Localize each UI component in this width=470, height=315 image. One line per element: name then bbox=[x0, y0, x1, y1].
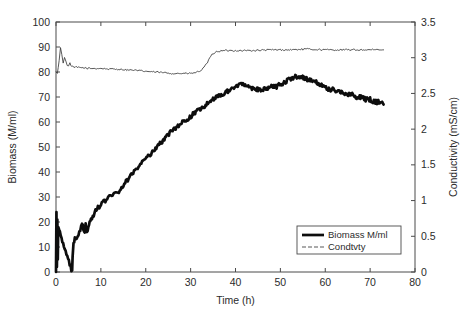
x-tick-label: 80 bbox=[409, 276, 421, 288]
x-tick-label: 10 bbox=[95, 276, 107, 288]
y-tick-label-right: 3.5 bbox=[421, 16, 436, 28]
chart-canvas: 0102030405060708001020304050607080901000… bbox=[0, 0, 470, 315]
y-axis-title-right: Conductivity (mS/cm) bbox=[447, 97, 459, 197]
y-tick-label-right: 1.5 bbox=[421, 158, 436, 170]
y-tick-label-left: 0 bbox=[44, 266, 50, 278]
x-tick-label: 50 bbox=[275, 276, 287, 288]
x-tick-label: 30 bbox=[185, 276, 197, 288]
y-tick-label-left: 30 bbox=[38, 191, 50, 203]
y-tick-label-right: 3 bbox=[421, 51, 427, 63]
y-tick-label-right: 2.5 bbox=[421, 87, 436, 99]
y-tick-label-left: 10 bbox=[38, 241, 50, 253]
x-axis-title: Time (h) bbox=[216, 294, 255, 306]
y-axis-title-left: Biomass (M/ml) bbox=[6, 111, 18, 184]
chart-figure: 0102030405060708001020304050607080901000… bbox=[0, 0, 470, 315]
x-tick-label: 0 bbox=[53, 276, 59, 288]
x-tick-label: 40 bbox=[230, 276, 242, 288]
y-tick-label-left: 60 bbox=[38, 116, 50, 128]
y-tick-label-left: 20 bbox=[38, 216, 50, 228]
x-tick-label: 70 bbox=[364, 276, 376, 288]
legend-label-biomass: Biomass M/ml bbox=[328, 229, 388, 240]
y-tick-label-right: 1 bbox=[421, 194, 427, 206]
legend-label-condtvty: Condtvty bbox=[328, 241, 366, 252]
y-tick-label-left: 40 bbox=[38, 166, 50, 178]
y-tick-label-right: 2 bbox=[421, 123, 427, 135]
y-tick-label-left: 80 bbox=[38, 66, 50, 78]
y-tick-label-right: 0.5 bbox=[421, 230, 436, 242]
y-tick-label-right: 0 bbox=[421, 266, 427, 278]
y-tick-label-left: 70 bbox=[38, 91, 50, 103]
y-tick-label-left: 50 bbox=[38, 141, 50, 153]
x-tick-label: 20 bbox=[140, 276, 152, 288]
y-tick-label-left: 90 bbox=[38, 41, 50, 53]
y-tick-label-left: 100 bbox=[32, 16, 50, 28]
x-tick-label: 60 bbox=[319, 276, 331, 288]
